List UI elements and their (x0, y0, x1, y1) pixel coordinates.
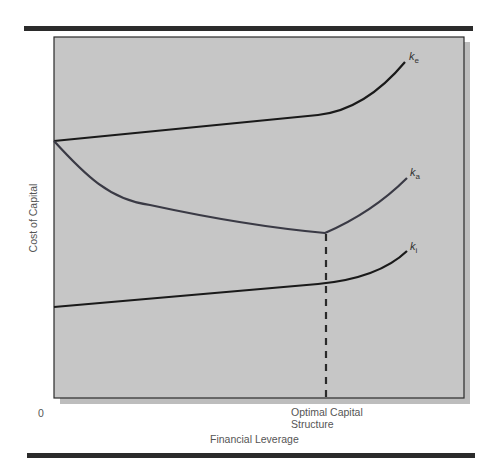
optimal-label-line2: Structure (291, 418, 363, 430)
y-axis-label: Cost of Capital (27, 182, 39, 254)
ki-label: ki (410, 240, 417, 255)
plot-area (54, 37, 464, 398)
x-axis-label: Financial Leverage (210, 433, 299, 445)
cost-of-capital-chart (0, 0, 495, 473)
optimal-label: Optimal Capital Structure (291, 406, 363, 430)
bottom-rule (27, 453, 475, 458)
ka-label: ka (410, 166, 420, 181)
ke-label: ke (409, 50, 419, 65)
origin-label: 0 (38, 407, 44, 419)
optimal-label-line1: Optimal Capital (291, 406, 363, 418)
